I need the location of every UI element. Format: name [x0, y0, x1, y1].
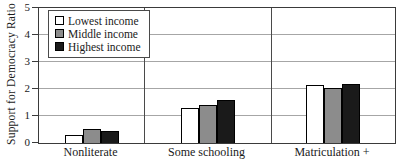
y-tick-label: 2 — [0, 83, 30, 94]
bar — [83, 129, 101, 143]
legend-item: Middle income — [55, 27, 141, 40]
y-tick-label: 4 — [0, 29, 30, 40]
bar-group — [306, 84, 360, 143]
bar-group — [65, 129, 119, 143]
legend-label: Middle income — [68, 28, 138, 40]
x-category-label: Nonliterate — [64, 145, 118, 160]
x-category-label: Some schooling — [168, 145, 245, 160]
y-tick-label: 5 — [0, 2, 30, 13]
bar — [217, 100, 235, 143]
bar — [101, 131, 119, 143]
bar-group — [181, 100, 235, 143]
legend-swatch-icon — [55, 42, 64, 51]
y-tick-label: 1 — [0, 110, 30, 121]
legend-label: Highest income — [68, 41, 141, 53]
y-tick-mark — [32, 115, 38, 116]
bar-chart: Support for Democracy Ratio 012345 Nonli… — [0, 0, 397, 162]
legend-item: Lowest income — [55, 14, 141, 27]
legend-item: Highest income — [55, 40, 141, 53]
y-tick-mark — [32, 88, 38, 89]
y-tick-mark — [32, 61, 38, 62]
bar — [199, 105, 217, 143]
legend-swatch-icon — [55, 29, 64, 38]
y-tick-label: 0 — [0, 137, 30, 148]
gridline — [39, 61, 395, 62]
y-axis-title: Support for Democracy Ratio — [5, 3, 17, 145]
x-category-label: Matriculation + — [294, 145, 369, 160]
panel-separator — [271, 8, 272, 143]
legend-swatch-icon — [55, 16, 64, 25]
bar — [342, 84, 360, 143]
bar — [324, 88, 342, 143]
bar — [181, 108, 199, 143]
legend: Lowest incomeMiddle incomeHighest income — [48, 10, 150, 58]
y-tick-label: 3 — [0, 56, 30, 67]
legend-label: Lowest income — [68, 15, 139, 27]
bar — [306, 85, 324, 143]
bar — [65, 135, 83, 143]
y-tick-mark — [32, 142, 38, 143]
y-tick-mark — [32, 7, 38, 8]
y-tick-mark — [32, 34, 38, 35]
